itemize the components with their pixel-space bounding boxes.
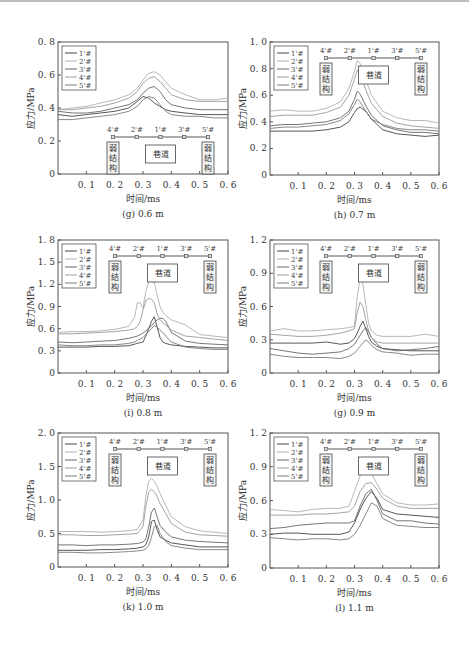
weak-structure-char: 弱	[109, 144, 117, 153]
x-tick-label: 0. 3	[346, 181, 363, 191]
gauge-label: 5'#	[202, 126, 214, 134]
y-tick-label: 0. 6	[38, 324, 55, 334]
gauge-label: 4'#	[109, 245, 121, 253]
weak-structure-char: 构	[322, 475, 330, 485]
gauge-marker	[396, 254, 399, 257]
gauge-label: 4'#	[320, 47, 332, 55]
gauge-label: 5'#	[204, 438, 216, 446]
legend-label-4: 4'#	[291, 272, 303, 280]
weak-structure-left: 弱结构	[320, 454, 332, 486]
legend-label-3: 3'#	[291, 66, 303, 74]
x-tick-label: 0. 2	[318, 181, 335, 191]
gauge-marker	[348, 56, 351, 59]
legend-label-3: 3'#	[79, 66, 91, 74]
gauge-marker	[137, 447, 140, 450]
gauge-label: 1'#	[367, 245, 379, 253]
roadway-label: 巷道	[155, 461, 171, 471]
x-tick-label: 0. 6	[219, 379, 236, 389]
panel-caption: (h) 0.7 m	[334, 210, 376, 220]
inset-schematic: 4'#2'#1'#3'#5'#弱结构弱结构巷道	[107, 126, 214, 174]
weak-structure-char: 结	[417, 272, 425, 282]
weak-structure-char: 构	[417, 475, 425, 485]
chart-panel-k10: 00. 51. 01. 52. 00. 10. 20. 30. 40. 50. …	[25, 428, 237, 612]
weak-structure-left: 弱结构	[109, 261, 121, 293]
x-tick-label: 0. 5	[402, 574, 419, 584]
inset-schematic: 4'#2'#1'#3'#5'#弱结构弱结构巷道	[320, 47, 427, 95]
gauge-marker	[324, 447, 327, 450]
y-tick-label: 0. 8	[250, 64, 267, 74]
gauge-marker	[185, 447, 188, 450]
y-axis-title: 应力/MPa	[25, 479, 36, 521]
weak-structure-char: 结	[206, 465, 214, 475]
inset-schematic: 4'#2'#1'#3'#5'#弱结构弱结构巷道	[320, 245, 427, 293]
gauge-marker	[137, 254, 140, 257]
x-tick-label: 0. 3	[134, 180, 151, 190]
x-tick-label: 0. 3	[346, 574, 363, 584]
gauge-marker	[161, 254, 164, 257]
x-tick-label: 0. 2	[318, 379, 335, 389]
x-tick-label: 0. 4	[374, 181, 391, 191]
weak-structure-char: 构	[417, 84, 425, 94]
y-axis-title: 应力/MPa	[25, 285, 36, 327]
legend: 1'#2'#3'#4'#5'#	[62, 244, 96, 288]
y-tick-label: 0	[261, 368, 267, 378]
legend-label-1: 1'#	[291, 248, 303, 256]
legend-label-5: 5'#	[79, 82, 91, 90]
weak-structure-char: 构	[322, 84, 330, 94]
roadway-label: 巷道	[366, 268, 382, 278]
weak-structure-char: 结	[111, 272, 119, 282]
weak-structure-char: 构	[111, 475, 119, 485]
legend-label-1: 1'#	[79, 248, 91, 256]
weak-structure-char: 构	[109, 163, 117, 173]
weak-structure-right: 弱结构	[415, 63, 427, 95]
x-tick-label: 0. 2	[106, 180, 123, 190]
weak-structure-right: 弱结构	[204, 261, 216, 293]
legend-label-1: 1'#	[291, 50, 303, 58]
y-tick-label: 0. 2	[250, 143, 267, 153]
gauge-marker	[185, 254, 188, 257]
weak-structure-char: 弱	[206, 263, 214, 272]
x-tick-label: 0. 6	[219, 180, 236, 190]
legend: 1'#2'#3'#4'#5'#	[274, 437, 308, 481]
legend-label-4: 4'#	[79, 465, 91, 473]
weak-structure-right: 弱结构	[415, 454, 427, 486]
x-tick-label: 0. 6	[430, 379, 447, 389]
x-tick-label: 0. 1	[290, 181, 307, 191]
gauge-marker	[113, 447, 116, 450]
legend-label-3: 3'#	[291, 264, 303, 272]
x-axis-title: 时间/ms	[126, 193, 161, 204]
inset-schematic: 4'#2'#1'#3'#5'#弱结构弱结构巷道	[109, 245, 216, 293]
x-tick-label: 0. 3	[346, 379, 363, 389]
y-tick-label: 0. 6	[250, 302, 267, 312]
gauge-label: 4'#	[320, 245, 332, 253]
y-tick-label: 1. 8	[38, 235, 55, 245]
x-axis-title: 时间/ms	[337, 392, 372, 403]
gauge-label: 5'#	[415, 438, 427, 446]
gauge-label: 2'#	[344, 438, 356, 446]
y-tick-label: 0. 6	[250, 90, 267, 100]
x-tick-label: 0. 2	[106, 379, 123, 389]
x-axis-title: 时间/ms	[126, 586, 161, 597]
x-tick-label: 0. 1	[78, 573, 95, 583]
gauge-label: 2'#	[131, 126, 143, 134]
weak-structure-char: 结	[417, 74, 425, 84]
x-tick-label: 0. 4	[163, 573, 180, 583]
gauge-marker	[183, 135, 186, 138]
x-tick-label: 0. 2	[106, 573, 123, 583]
y-tick-label: 0. 9	[250, 268, 267, 278]
y-tick-label: 0. 6	[250, 496, 267, 506]
gauge-marker	[419, 447, 422, 450]
gauge-label: 3'#	[178, 126, 190, 134]
gauge-label: 2'#	[344, 47, 356, 55]
weak-structure-char: 结	[109, 153, 117, 163]
weak-structure-right: 弱结构	[415, 261, 427, 293]
y-tick-label: 0. 5	[38, 529, 55, 539]
gauge-label: 4'#	[107, 126, 119, 134]
weak-structure-char: 弱	[322, 456, 330, 465]
legend-label-4: 4'#	[291, 74, 303, 82]
y-tick-label: 0	[49, 562, 55, 572]
panel-caption: (k) 1.0 m	[122, 602, 164, 612]
weak-structure-char: 弱	[322, 65, 330, 74]
chart-panel-h07: 00. 20. 40. 60. 81. 00. 10. 20. 30. 40. …	[237, 37, 448, 220]
weak-structure-char: 结	[204, 153, 212, 163]
